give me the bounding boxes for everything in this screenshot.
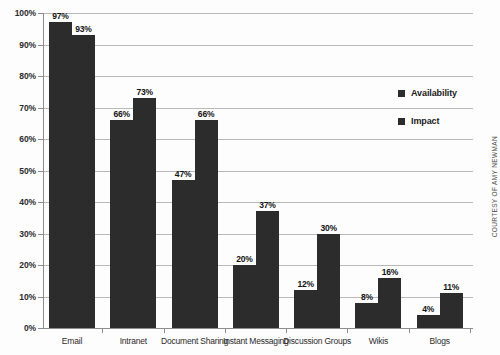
y-axis-tick-label: 70% (2, 103, 36, 113)
y-axis-tick-mark (38, 108, 44, 109)
x-axis-tick-mark (225, 329, 226, 333)
y-axis-tick-label: 10% (2, 292, 36, 302)
y-axis-tick-mark (38, 139, 44, 140)
x-axis-category-label: Discussion Groups (283, 336, 351, 346)
bar-group: 12%30% (294, 13, 340, 328)
y-axis-tick-mark (38, 171, 44, 172)
x-axis-category-label: Instant Messaging (223, 336, 289, 346)
credit-text: COURTESY OF AMY NEWMAN (491, 136, 498, 237)
bar-group: 20%37% (233, 13, 279, 328)
x-axis-tick-mark (470, 329, 471, 333)
y-axis-tick-mark (38, 328, 44, 329)
y-axis-tick-label: 30% (2, 229, 36, 239)
bar-impact[interactable]: 66% (195, 120, 218, 328)
y-axis-tick-mark (38, 297, 44, 298)
y-axis-tick-label: 40% (2, 197, 36, 207)
bar-value-label: 93% (75, 24, 91, 34)
bar-value-label: 12% (297, 279, 313, 289)
bar-value-label: 8% (361, 292, 373, 302)
bar-group: 4%11% (417, 13, 463, 328)
legend-item-impact[interactable]: Impact (398, 116, 494, 126)
y-axis-tick-label: 20% (2, 260, 36, 270)
y-axis-tick-label: 80% (2, 71, 36, 81)
y-axis-tick-label: 90% (2, 40, 36, 50)
y-axis-tick-label: 0% (2, 323, 36, 333)
bar-value-label: 66% (114, 109, 130, 119)
bar-value-label: 73% (137, 87, 153, 97)
x-axis-category-label: Wikis (369, 336, 388, 346)
bar-value-label: 4% (422, 304, 434, 314)
y-axis-tick-mark (38, 234, 44, 235)
bar-availability[interactable]: 47% (172, 180, 195, 328)
y-axis-tick-mark (38, 45, 44, 46)
x-axis-tick-mark (102, 329, 103, 333)
y-axis-tick-label: 100% (2, 8, 36, 18)
y-axis-labels: 0%10%20%30%40%50%60%70%80%90%100% (0, 0, 36, 355)
bar-value-label: 47% (175, 169, 191, 179)
bar-impact[interactable]: 16% (378, 278, 401, 328)
chart-title-remnant (0, 0, 500, 6)
bar-availability[interactable]: 97% (49, 22, 72, 328)
legend-swatch-icon (398, 118, 405, 125)
y-axis-tick-mark (38, 76, 44, 77)
x-axis: EmailIntranetDocument SharingInstant Mes… (44, 329, 473, 355)
x-axis-category-label: Blogs (430, 336, 450, 346)
legend-label: Impact (411, 116, 439, 126)
bar-impact[interactable]: 93% (72, 35, 95, 328)
legend-label: Availability (411, 88, 457, 98)
bar-impact[interactable]: 37% (256, 211, 279, 328)
x-axis-tick-mark (347, 329, 348, 333)
bar-chart: 0%10%20%30%40%50%60%70%80%90%100% 97%93%… (0, 0, 500, 355)
x-axis-tick-mark (286, 329, 287, 333)
bar-group: 47%66% (172, 13, 218, 328)
x-axis-tick-mark (409, 329, 410, 333)
legend-item-availability[interactable]: Availability (398, 88, 494, 98)
bar-impact[interactable]: 73% (133, 98, 156, 328)
legend-swatch-icon (398, 90, 405, 97)
y-axis-tick-mark (38, 265, 44, 266)
y-axis-tick-mark (38, 13, 44, 14)
bar-value-label: 37% (259, 200, 275, 210)
x-axis-category-label: Intranet (120, 336, 147, 346)
bar-value-label: 30% (320, 223, 336, 233)
chart-legend: AvailabilityImpact (398, 88, 494, 144)
bar-impact[interactable]: 11% (440, 293, 463, 328)
plot-area: 97%93%66%73%47%66%20%37%12%30%8%16%4%11% (44, 13, 473, 328)
bar-value-label: 20% (236, 254, 252, 264)
bar-availability[interactable]: 20% (233, 265, 256, 328)
bar-value-label: 11% (443, 282, 459, 292)
bar-availability[interactable]: 66% (110, 120, 133, 328)
x-axis-category-label: Document Sharing (161, 336, 228, 346)
bar-group: 97%93% (49, 13, 95, 328)
bar-availability[interactable]: 12% (294, 290, 317, 328)
bar-value-label: 66% (198, 109, 214, 119)
x-axis-tick-mark (164, 329, 165, 333)
bar-availability[interactable]: 4% (417, 315, 440, 328)
y-axis-tick-mark (38, 202, 44, 203)
y-axis-tick-label: 60% (2, 134, 36, 144)
bar-value-label: 97% (52, 11, 68, 21)
x-axis-category-label: Email (62, 336, 82, 346)
bar-impact[interactable]: 30% (317, 234, 340, 329)
bar-availability[interactable]: 8% (355, 303, 378, 328)
bar-group: 66%73% (110, 13, 156, 328)
y-axis-tick-label: 50% (2, 166, 36, 176)
bar-group: 8%16% (355, 13, 401, 328)
bar-value-label: 16% (382, 267, 398, 277)
